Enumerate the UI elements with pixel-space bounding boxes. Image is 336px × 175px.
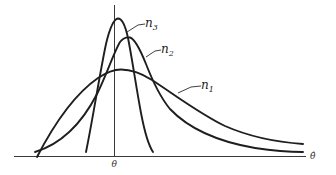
curve-n1 [37,70,303,158]
sampling-distribution-figure: n3 n2 n1 θ θ̂ [0,0,336,175]
label-n2: n2 [161,42,174,58]
leader-n3 [127,24,145,32]
label-n3: n3 [145,16,158,32]
x-axis-label: θ̂ [310,151,316,161]
curve-n3 [86,19,153,153]
label-n1: n1 [201,78,214,94]
leader-n2 [146,50,161,57]
theta-tick-label: θ [112,159,118,169]
leader-n1 [178,86,201,93]
